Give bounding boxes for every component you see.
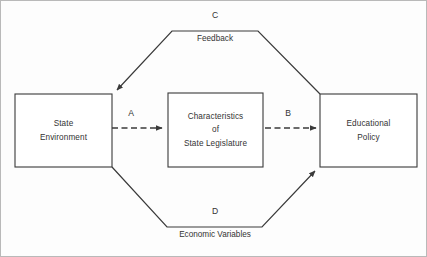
diagram-canvas: State Environment Characteristics of Sta… — [0, 0, 427, 257]
edge-label-d: D — [187, 206, 243, 216]
node-educational-policy-box — [320, 94, 417, 167]
edge-label-a: A — [118, 108, 144, 118]
edge-label-b: B — [275, 108, 301, 118]
node-state-environment-box — [15, 94, 112, 167]
edge-label-feedback: Feedback — [178, 34, 252, 44]
edge-label-economic-variables: Economic Variables — [160, 230, 270, 240]
node-characteristics-box — [168, 93, 263, 167]
edge-label-c: C — [187, 10, 243, 20]
